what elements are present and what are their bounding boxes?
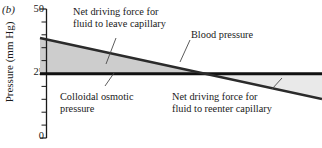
annotation-colloid-line2: pressure xyxy=(60,103,94,114)
annotation-leave-line2: fluid to leave capillary xyxy=(73,18,166,29)
annotation-colloid-line1: Colloidal osmotic xyxy=(60,91,134,102)
annotation-reenter-capillary: Net driving force for fluid to reenter c… xyxy=(172,91,272,114)
annotation-colloidal-osmotic: Colloidal osmotic pressure xyxy=(60,91,134,114)
figure-panel: (b) Pressure (mm Hg) 50 25 0 xyxy=(0,0,322,148)
annotation-blood-pressure: Blood pressure xyxy=(191,29,253,41)
annotation-reenter-line2: fluid to reenter capillary xyxy=(172,103,272,114)
annotation-leave-line1: Net driving force for xyxy=(73,6,159,17)
annotation-leave-capillary: Net driving force for fluid to leave cap… xyxy=(73,6,166,29)
annotation-reenter-line1: Net driving force for xyxy=(172,91,258,102)
annotation-blood-label: Blood pressure xyxy=(191,29,253,40)
leader-line-blood xyxy=(180,40,190,62)
